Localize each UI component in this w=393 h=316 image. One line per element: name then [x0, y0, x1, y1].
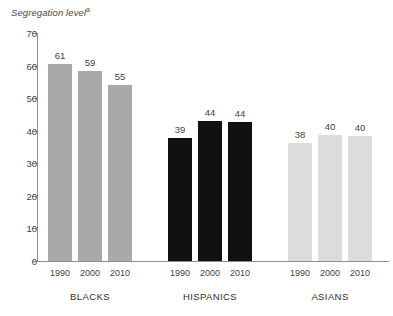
year-label-blacks-1990: 1990	[50, 268, 70, 278]
bar-hispanics-2010: 44	[228, 122, 252, 261]
bar-value-label: 40	[325, 121, 336, 132]
bar-blacks-2000: 59	[78, 71, 102, 261]
y-tick-label: 50	[9, 93, 37, 104]
bar-hispanics-1990: 39	[168, 138, 192, 261]
bar-value-label: 39	[175, 124, 186, 135]
bar-asians-2010: 40	[348, 136, 372, 261]
bar-asians-1990: 38	[288, 143, 312, 261]
year-label-blacks-2000: 2000	[80, 268, 100, 278]
bar-value-label: 55	[115, 71, 126, 82]
y-tick-label: 60	[9, 60, 37, 71]
y-tick-label: 70	[9, 28, 37, 39]
bar-value-label: 61	[55, 50, 66, 61]
y-tick-label: 0	[9, 256, 37, 267]
y-tick-label: 10	[9, 223, 37, 234]
y-tick-label: 40	[9, 125, 37, 136]
segregation-level-bar-chart: Segregation levela 70 60 50 40 30 20	[0, 0, 393, 316]
bar-value-label: 44	[205, 107, 216, 118]
x-axis-line	[37, 261, 389, 262]
bar-hispanics-2000: 44	[198, 121, 222, 261]
y-tick-label: 20	[9, 190, 37, 201]
bar-blacks-1990: 61	[48, 64, 72, 261]
year-label-asians-2000: 2000	[320, 268, 340, 278]
y-axis-line	[37, 33, 38, 262]
group-label-asians: ASIANS	[311, 291, 348, 302]
year-label-asians-1990: 1990	[290, 268, 310, 278]
group-label-blacks: BLACKS	[70, 291, 110, 302]
group-label-hispanics: HISPANICS	[183, 291, 237, 302]
year-label-hispanics-1990: 1990	[170, 268, 190, 278]
bar-asians-2000: 40	[318, 135, 342, 261]
bar-value-label: 59	[85, 57, 96, 68]
bar-blacks-2010: 55	[108, 85, 132, 261]
bar-value-label: 40	[355, 122, 366, 133]
bar-value-label: 38	[295, 129, 306, 140]
y-tick-label: 30	[9, 158, 37, 169]
bar-value-label: 44	[235, 108, 246, 119]
year-label-asians-2010: 2010	[350, 268, 370, 278]
year-label-hispanics-2010: 2010	[230, 268, 250, 278]
year-label-blacks-2010: 2010	[110, 268, 130, 278]
year-label-hispanics-2000: 2000	[200, 268, 220, 278]
plot-area: 70 60 50 40 30 20 10 0	[0, 0, 393, 316]
